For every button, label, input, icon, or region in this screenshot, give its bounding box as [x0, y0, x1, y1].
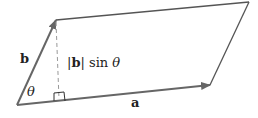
label-height-expression: |b| sin θ	[67, 56, 120, 69]
label-vector-b: b	[20, 52, 29, 65]
label-vector-a: a	[131, 96, 139, 109]
right-edge	[210, 2, 249, 85]
theta-text: θ	[112, 55, 120, 70]
top-edge	[56, 2, 249, 20]
label-angle-theta: θ	[27, 85, 35, 98]
height-dashed-line	[56, 22, 59, 99]
sin-text: sin	[85, 55, 112, 70]
vector-a-arrow	[17, 85, 210, 105]
parallelogram-diagram	[0, 0, 258, 118]
